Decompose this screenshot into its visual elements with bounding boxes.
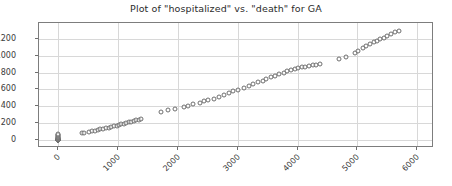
data-point [344,55,349,60]
x-tick-label: 2000 [147,152,182,186]
y-tick-label: 600 [0,84,16,93]
data-point [166,108,171,113]
data-point [337,57,342,62]
gridline-vertical [178,23,179,146]
data-point [139,117,144,122]
gridline-horizontal [39,106,432,107]
data-point [211,96,216,101]
y-tick-mark [35,38,38,39]
data-point [190,102,195,107]
y-tick-mark [35,122,38,123]
gridline-vertical [417,23,418,146]
data-point [205,98,210,103]
data-point [172,107,177,112]
data-point [221,93,226,98]
y-tick-mark [35,105,38,106]
x-tick-mark [237,147,238,150]
gridline-vertical [238,23,239,146]
y-tick-label: 800 [0,67,16,76]
data-point [158,109,163,114]
x-tick-mark [117,147,118,150]
gridline-horizontal [39,56,432,57]
y-tick-mark [35,72,38,73]
x-tick-mark [297,147,298,150]
x-tick-label: 1000 [87,152,122,186]
y-tick-mark [35,55,38,56]
y-tick-mark [35,139,38,140]
y-tick-mark [35,88,38,89]
gridline-horizontal [39,123,432,124]
chart-title: Plot of "hospitalized" vs. "death" for G… [0,3,452,14]
x-tick-label: 6000 [387,152,422,186]
data-point [56,132,61,137]
gridline-horizontal [39,73,432,74]
data-point [396,28,401,33]
x-tick-label: 4000 [267,152,302,186]
y-tick-label: 1200 [0,33,16,42]
y-tick-label: 200 [0,118,16,127]
x-tick-mark [57,147,58,150]
gridline-vertical [298,23,299,146]
y-tick-label: 0 [0,135,16,144]
x-tick-label: 5000 [327,152,362,186]
x-tick-mark [356,147,357,150]
y-tick-label: 400 [0,101,16,110]
data-point [318,61,323,66]
x-tick-label: 3000 [207,152,242,186]
plot-area [38,22,433,147]
x-tick-mark [177,147,178,150]
x-tick-label: 0 [27,152,62,186]
data-point [236,87,241,92]
gridline-horizontal [39,140,432,141]
y-tick-label: 1000 [0,50,16,59]
figure: Plot of "hospitalized" vs. "death" for G… [0,0,452,186]
gridline-vertical [58,23,59,146]
x-tick-mark [416,147,417,150]
gridline-vertical [357,23,358,146]
